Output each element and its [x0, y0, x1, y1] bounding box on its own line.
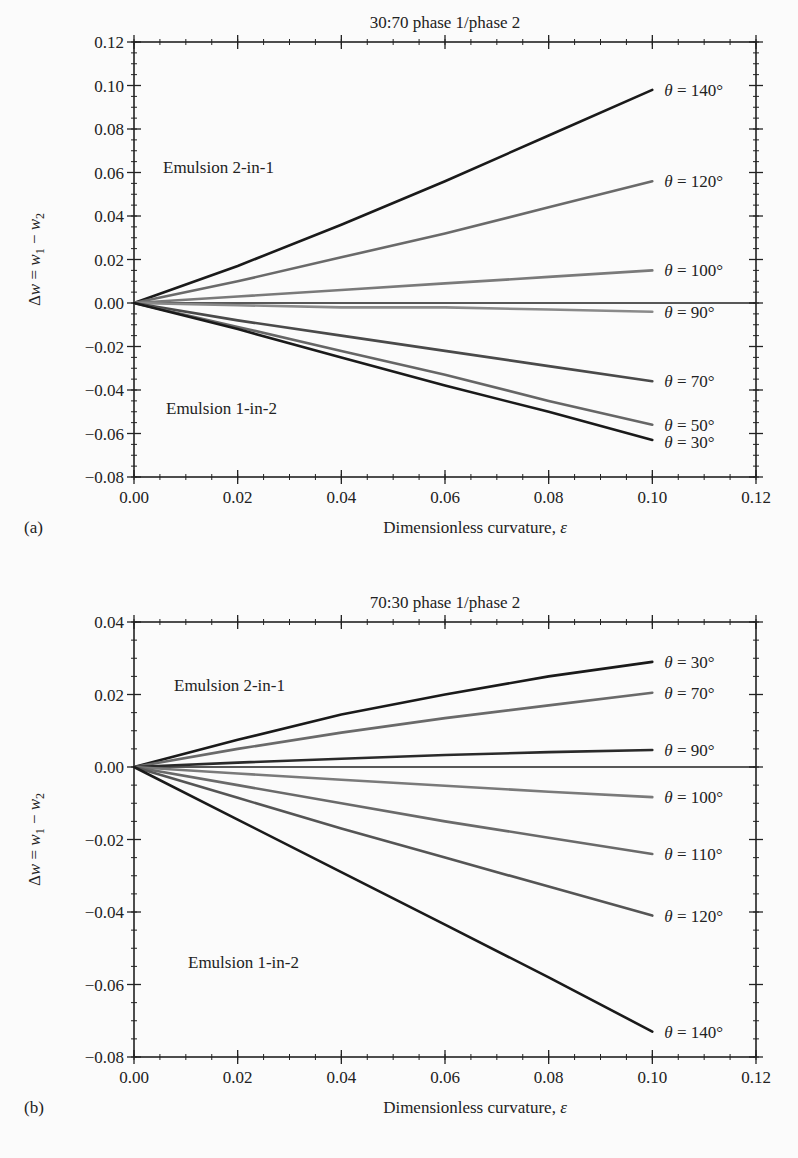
y-axis-label: Δw = w1 − w2: [25, 793, 47, 886]
x-tick-label: 0.06: [430, 488, 460, 507]
series-line: [134, 767, 652, 797]
x-tick-label: 0.00: [119, 1068, 149, 1087]
x-tick-label: 0.08: [534, 488, 564, 507]
y-tick-label: 0.02: [94, 251, 124, 270]
y-tick-label: 0.04: [94, 207, 124, 226]
annotation-emulsion-2-in-1: Emulsion 2-in-1: [163, 158, 274, 177]
series-line: [134, 767, 652, 1032]
series-label: θ = 70°: [664, 684, 714, 703]
series-label: θ = 100°: [664, 261, 723, 280]
y-tick-label: −0.08: [85, 468, 124, 487]
x-tick-label: 0.12: [741, 488, 771, 507]
series-label: θ = 140°: [664, 1023, 723, 1042]
figure: 30:70 phase 1/phase 20.000.020.040.060.0…: [0, 0, 798, 1158]
series-label: θ = 120°: [664, 172, 723, 191]
chart-title: 70:30 phase 1/phase 2: [370, 593, 521, 612]
y-tick-label: −0.02: [85, 338, 124, 357]
x-tick-label: 0.02: [223, 1068, 253, 1087]
chart-title: 30:70 phase 1/phase 2: [370, 13, 521, 32]
series-line: [134, 90, 652, 303]
series-label: θ = 90°: [664, 741, 714, 760]
y-tick-label: 0.06: [94, 164, 124, 183]
series-label: θ = 120°: [664, 907, 723, 926]
chart-b: 70:30 phase 1/phase 20.000.020.040.060.0…: [24, 593, 771, 1117]
x-axis-label: Dimensionless curvature, ε: [383, 1098, 567, 1117]
y-tick-label: −0.06: [85, 425, 124, 444]
x-tick-label: 0.10: [637, 488, 667, 507]
y-tick-label: −0.04: [85, 903, 125, 922]
chart-a: 30:70 phase 1/phase 20.000.020.040.060.0…: [24, 13, 771, 537]
panel-label: (b): [24, 1098, 44, 1117]
series-line: [134, 303, 652, 381]
y-axis-label: Δw = w1 − w2: [25, 213, 47, 306]
x-tick-label: 0.04: [326, 488, 356, 507]
x-tick-label: 0.04: [326, 1068, 356, 1087]
annotation-emulsion-2-in-1: Emulsion 2-in-1: [174, 676, 285, 695]
series-label: θ = 100°: [664, 788, 723, 807]
x-tick-label: 0.00: [119, 488, 149, 507]
y-tick-label: 0.00: [94, 758, 124, 777]
y-tick-label: −0.08: [85, 1048, 124, 1067]
x-tick-label: 0.02: [223, 488, 253, 507]
y-tick-label: 0.02: [94, 686, 124, 705]
y-tick-label: 0.10: [94, 77, 124, 96]
series-label: θ = 70°: [664, 372, 714, 391]
y-tick-label: 0.08: [94, 120, 124, 139]
x-tick-label: 0.08: [534, 1068, 564, 1087]
series-line: [134, 767, 652, 854]
x-tick-label: 0.06: [430, 1068, 460, 1087]
series-label: θ = 90°: [664, 303, 714, 322]
series-label: θ = 140°: [664, 81, 723, 100]
x-tick-label: 0.10: [637, 1068, 667, 1087]
y-tick-label: 0.04: [94, 613, 124, 632]
annotation-emulsion-1-in-2: Emulsion 1-in-2: [166, 399, 277, 418]
y-tick-label: 0.00: [94, 294, 124, 313]
annotation-emulsion-1-in-2: Emulsion 1-in-2: [188, 953, 299, 972]
y-tick-label: −0.04: [85, 381, 125, 400]
series-label: θ = 30°: [664, 433, 714, 452]
y-tick-label: −0.06: [85, 976, 124, 995]
series-label: θ = 110°: [664, 845, 722, 864]
y-tick-label: −0.02: [85, 831, 124, 850]
series-line: [134, 303, 652, 440]
series-line: [134, 181, 652, 303]
panel-label: (a): [24, 518, 43, 537]
series-line: [134, 303, 652, 312]
y-tick-label: 0.12: [94, 33, 124, 52]
x-axis-label: Dimensionless curvature, ε: [383, 518, 567, 537]
x-tick-label: 0.12: [741, 1068, 771, 1087]
series-label: θ = 30°: [664, 653, 714, 672]
